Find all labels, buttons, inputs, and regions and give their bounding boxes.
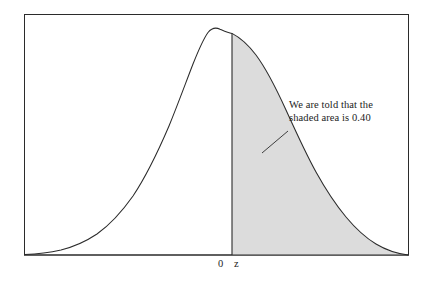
axis-label-z: z — [234, 258, 239, 270]
figure-frame — [25, 15, 409, 256]
annotation-text-block: We are told that the shaded area is 0.40 — [289, 98, 409, 124]
axis-label-origin: 0 — [218, 258, 223, 270]
figure-container: We are told that the shaded area is 0.40… — [0, 0, 430, 283]
annotation-line-2: shaded area is 0.40 — [289, 111, 409, 124]
annotation-line-1: We are told that the — [289, 98, 409, 111]
normal-curve-figure — [0, 0, 430, 283]
